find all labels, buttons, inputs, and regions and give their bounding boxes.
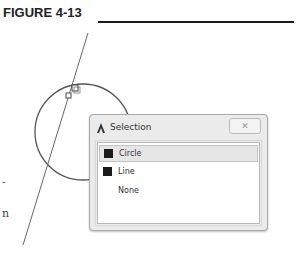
grip-icon: [66, 93, 71, 98]
dialog-titlebar[interactable]: Selection ✕: [90, 115, 267, 141]
list-item-label: Line: [118, 164, 135, 179]
autocad-a-icon: [96, 123, 106, 133]
color-swatch-icon: [104, 149, 113, 158]
selection-dialog: Selection ✕ Circle Line None: [89, 114, 268, 231]
dialog-title: Selection: [110, 122, 151, 132]
color-swatch-icon: [103, 167, 112, 176]
pickbox-cursor-icon: [72, 85, 78, 91]
list-item-label: None: [118, 183, 139, 198]
selection-list: Circle Line None: [97, 142, 260, 224]
line-entity[interactable]: [23, 33, 88, 245]
list-item-none[interactable]: None: [99, 183, 258, 198]
close-button[interactable]: ✕: [229, 118, 261, 134]
list-item-line[interactable]: Line: [99, 164, 258, 179]
list-item-label: Circle: [119, 146, 141, 161]
list-item-circle[interactable]: Circle: [99, 145, 258, 162]
close-icon: ✕: [241, 121, 249, 131]
